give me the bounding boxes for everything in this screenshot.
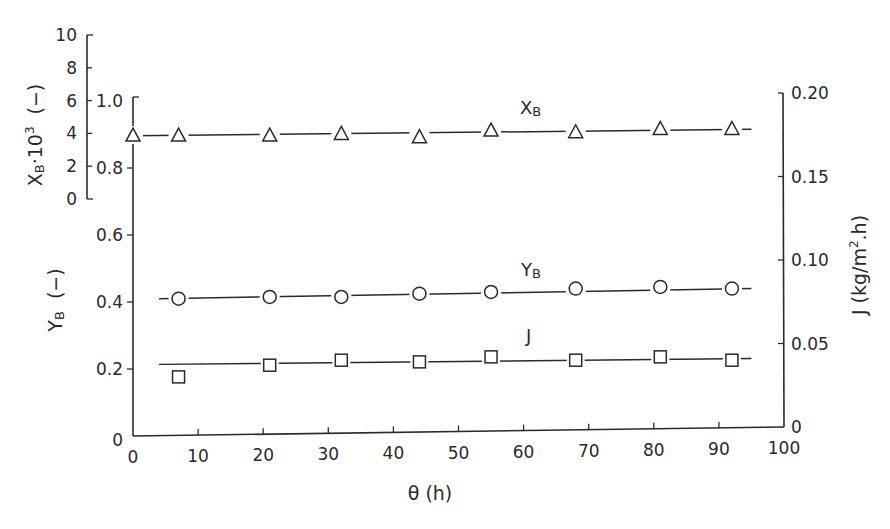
left-upper-tick-label: 10 — [55, 25, 77, 45]
circle-marker — [485, 285, 498, 298]
circle-marker — [654, 280, 667, 293]
circle-marker — [725, 282, 738, 295]
left-upper-tick-label: 2 — [66, 156, 77, 176]
circle-marker — [172, 292, 185, 305]
square-marker — [485, 351, 497, 363]
left-upper-tick-label: 4 — [66, 123, 77, 143]
right-tick-label: 0 — [791, 417, 802, 437]
chart-container: 010203040506070809010000.20.40.60.81.002… — [0, 0, 890, 529]
left-lower-tick-label: 0.4 — [96, 292, 123, 312]
left-lower-tick-label: 0 — [112, 430, 123, 450]
x-tick-label: 60 — [513, 442, 535, 462]
right-tick-label: 0.15 — [791, 167, 829, 187]
series-label-yb: YB — [520, 259, 541, 281]
right-tick-label: 0.10 — [791, 250, 829, 270]
left-upper-tick-label: 8 — [66, 58, 77, 78]
x-axis-title: θ (h) — [408, 482, 453, 504]
series-xb — [123, 119, 751, 145]
x-tick-label: 0 — [128, 447, 139, 467]
left-lower-tick-label: 1.0 — [96, 91, 123, 111]
x-tick-label: 100 — [768, 438, 800, 458]
right-axis-line — [783, 93, 784, 427]
left-lower-tick-label: 0.2 — [96, 359, 123, 379]
x-tick-label: 90 — [708, 439, 730, 459]
x-tick-label: 50 — [448, 443, 470, 463]
square-marker — [173, 371, 185, 383]
right-axis-title: J (kg/m2.h) — [847, 215, 870, 316]
left-lower-axis-title: YB(−) — [44, 268, 67, 332]
svg-text:YB(−): YB(−) — [44, 268, 67, 332]
square-marker — [413, 356, 425, 368]
x-tick-label: 40 — [383, 443, 405, 463]
series-yb — [159, 280, 751, 306]
circle-marker — [335, 290, 348, 303]
left-upper-tick-label: 6 — [66, 91, 77, 111]
left-lower-tick-label: 0.8 — [96, 158, 123, 178]
right-tick-label: 0.20 — [791, 83, 829, 103]
svg-text:XB·103(−): XB·103(−) — [23, 84, 47, 187]
square-marker — [264, 359, 276, 371]
square-marker — [654, 351, 666, 363]
left-lower-tick-label: 0.6 — [96, 225, 123, 245]
x-tick-label: 20 — [252, 445, 274, 465]
series-label-j: J — [525, 325, 531, 346]
chart-svg: 010203040506070809010000.20.40.60.81.002… — [0, 0, 890, 529]
left-upper-axis-title: XB·103(−) — [23, 84, 47, 187]
square-marker — [570, 354, 582, 366]
circle-marker — [413, 287, 426, 300]
x-tick-label: 10 — [187, 446, 209, 466]
axes: 010203040506070809010000.20.40.60.81.002… — [55, 25, 829, 467]
x-tick-label: 70 — [578, 441, 600, 461]
circle-marker — [569, 282, 582, 295]
right-tick-label: 0.05 — [791, 334, 829, 354]
series-layer — [123, 119, 751, 382]
series-label-xb: XB — [520, 97, 541, 119]
square-marker — [335, 354, 347, 366]
circle-marker — [263, 290, 276, 303]
x-tick-label: 80 — [643, 440, 665, 460]
left-upper-tick-label: 0 — [66, 189, 77, 209]
x-tick-label: 30 — [317, 444, 339, 464]
square-marker — [726, 354, 738, 366]
svg-text:J (kg/m2.h): J (kg/m2.h) — [847, 215, 870, 316]
series-j — [159, 351, 751, 383]
